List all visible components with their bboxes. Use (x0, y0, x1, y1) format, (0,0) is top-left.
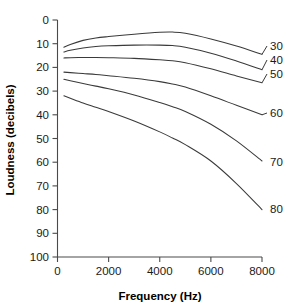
chart-canvas: 0102030405060708090100 02000400060008000… (0, 0, 298, 306)
y-tick-label: 80 (36, 204, 49, 216)
loudness-frequency-chart: 0102030405060708090100 02000400060008000… (0, 0, 298, 306)
y-tick-label: 40 (36, 109, 49, 121)
y-tick-label: 50 (36, 133, 49, 145)
curve-label-60: 60 (270, 107, 283, 119)
y-tick-label: 20 (36, 61, 49, 73)
x-tick-label: 2000 (96, 265, 122, 277)
x-tick-label: 0 (54, 265, 60, 277)
y-tick-label: 0 (43, 14, 49, 26)
y-tick-label: 30 (36, 85, 49, 97)
y-tick-label: 100 (30, 251, 49, 263)
x-tick-label: 6000 (198, 265, 224, 277)
curve-label-30: 30 (270, 40, 283, 52)
y-tick-label: 90 (36, 227, 49, 239)
curve-label-50: 50 (270, 68, 283, 80)
x-tick-label: 4000 (147, 265, 173, 277)
x-axis-title: Frequency (Hz) (118, 290, 201, 302)
y-tick-label: 70 (36, 180, 49, 192)
y-tick-label: 10 (36, 38, 49, 50)
curve-label-70: 70 (270, 156, 283, 168)
curve-label-80: 80 (270, 203, 283, 215)
curve-label-40: 40 (270, 54, 283, 66)
y-axis-title: Loudness (decibels) (4, 84, 16, 195)
x-tick-label: 8000 (249, 265, 275, 277)
y-tick-label: 60 (36, 156, 49, 168)
